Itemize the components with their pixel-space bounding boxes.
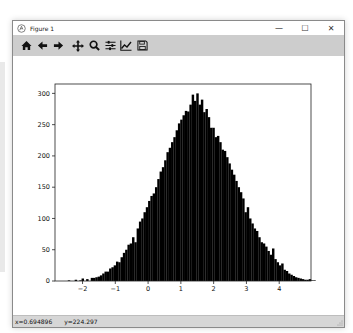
- histogram-bar: [144, 212, 146, 281]
- cursor-y-readout: y=224.297: [64, 318, 97, 325]
- histogram-bar: [199, 105, 201, 281]
- histogram-plot[interactable]: −2−101234050100150200250300: [13, 56, 344, 316]
- histogram-bar: [272, 248, 274, 281]
- x-tick-label: −2: [78, 285, 88, 293]
- maximize-button[interactable]: ☐: [292, 21, 318, 35]
- histogram-bar: [205, 109, 207, 281]
- app-icon: [17, 24, 26, 33]
- histogram-bar: [107, 272, 109, 281]
- histogram-bar: [183, 115, 185, 281]
- y-tick-label: 100: [38, 215, 50, 223]
- histogram-bar: [256, 231, 258, 281]
- close-button[interactable]: ✕: [318, 21, 344, 35]
- background-window-edge: [0, 62, 5, 272]
- histogram-bar: [293, 276, 295, 281]
- histogram-bar: [150, 196, 152, 281]
- histogram-bar: [290, 275, 292, 281]
- histogram-bar: [157, 179, 159, 281]
- histogram-bar: [137, 228, 139, 281]
- histogram-bar: [171, 142, 173, 281]
- histogram-bar: [242, 198, 244, 281]
- histogram-bar: [116, 262, 118, 281]
- x-tick-label: 4: [277, 285, 281, 293]
- histogram-bar: [258, 237, 260, 281]
- histogram-bar: [313, 280, 315, 281]
- sliders-icon: [105, 40, 116, 51]
- edit-axis-button[interactable]: [119, 39, 133, 53]
- histogram-bar: [102, 273, 104, 281]
- y-tick-label: 200: [38, 152, 50, 160]
- histogram-bar: [210, 128, 212, 281]
- histogram-bar: [222, 150, 224, 281]
- histogram-bar: [121, 257, 123, 281]
- arrow-left-icon: [37, 40, 48, 51]
- save-button[interactable]: [135, 39, 149, 53]
- histogram-bar: [265, 247, 267, 281]
- histogram-bar: [203, 112, 205, 281]
- histogram-bars: [68, 93, 316, 281]
- histogram-bar: [148, 201, 150, 281]
- back-button[interactable]: [35, 39, 49, 53]
- histogram-bar: [123, 253, 125, 281]
- histogram-bar: [274, 259, 276, 281]
- subplots-button[interactable]: [103, 39, 117, 53]
- figure-canvas[interactable]: −2−101234050100150200250300: [13, 56, 344, 316]
- histogram-bar: [91, 278, 93, 281]
- histogram-bar: [173, 137, 175, 281]
- histogram-bar: [153, 193, 155, 281]
- histogram-bar: [270, 255, 272, 281]
- zoom-button[interactable]: [87, 39, 101, 53]
- histogram-bar: [238, 187, 240, 281]
- histogram-bar: [224, 151, 226, 281]
- histogram-bar: [247, 207, 249, 281]
- x-tick-label: 3: [244, 285, 248, 293]
- histogram-bar: [155, 187, 157, 281]
- histogram-bar: [162, 167, 164, 281]
- move-icon: [72, 40, 84, 52]
- forward-button[interactable]: [51, 39, 65, 53]
- histogram-bar: [212, 128, 214, 281]
- histogram-bar: [132, 237, 134, 281]
- navigation-toolbar: [13, 35, 344, 56]
- histogram-bar: [134, 242, 136, 281]
- y-tick-label: 250: [38, 121, 50, 129]
- histogram-bar: [228, 163, 230, 281]
- minimize-button[interactable]: —: [266, 21, 292, 35]
- histogram-bar: [279, 265, 281, 281]
- pan-button[interactable]: [71, 39, 85, 53]
- figure-window: Figure 1 — ☐ ✕: [12, 20, 345, 328]
- x-tick-label: −1: [111, 285, 121, 293]
- histogram-bar: [192, 95, 194, 281]
- histogram-bar: [114, 265, 116, 281]
- histogram-bar: [111, 267, 113, 281]
- histogram-bar: [104, 272, 106, 281]
- x-tick-label: 0: [146, 285, 150, 293]
- x-tick-label: 2: [212, 285, 216, 293]
- histogram-bar: [187, 112, 189, 281]
- histogram-bar: [100, 275, 102, 281]
- y-tick-label: 50: [42, 246, 50, 254]
- histogram-bar: [240, 192, 242, 281]
- histogram-bar: [93, 278, 95, 281]
- histogram-bar: [201, 100, 203, 281]
- histogram-bar: [208, 117, 210, 281]
- histogram-bar: [189, 105, 191, 281]
- histogram-bar: [160, 172, 162, 281]
- y-tick-label: 150: [38, 183, 50, 191]
- histogram-bar: [176, 130, 178, 281]
- home-button[interactable]: [19, 39, 33, 53]
- resize-grip-icon[interactable]: [337, 320, 343, 326]
- histogram-bar: [261, 242, 263, 281]
- histogram-bar: [127, 245, 129, 281]
- histogram-bar: [281, 263, 283, 281]
- histogram-bar: [297, 278, 299, 281]
- title-bar[interactable]: Figure 1 — ☐ ✕: [13, 21, 344, 35]
- histogram-bar: [125, 250, 127, 281]
- histogram-bar: [130, 243, 132, 281]
- home-icon: [21, 40, 32, 51]
- histogram-bar: [166, 152, 168, 281]
- status-bar: x=0.694896 y=224.297: [13, 315, 344, 327]
- histogram-bar: [109, 268, 111, 281]
- histogram-bar: [254, 228, 256, 281]
- histogram-bar: [295, 277, 297, 281]
